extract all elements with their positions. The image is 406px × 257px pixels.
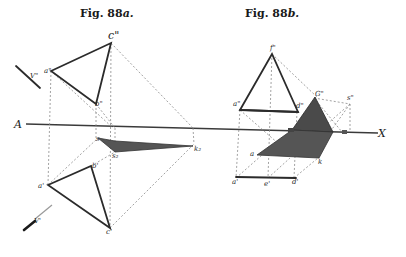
- label-a-double-prime-b: a": [233, 100, 240, 108]
- figure-88a: c" a" b" V" s s₂ k₂ a' b' c' V': [16, 29, 201, 236]
- label-b-double-prime: b": [95, 100, 103, 108]
- label-e-prime: e': [264, 180, 270, 188]
- label-k-shadow: k: [318, 158, 322, 166]
- label-a-prime-b: a': [232, 178, 238, 186]
- triangle-vertical-projection: [51, 43, 111, 104]
- caption-fig-88b: Fig. 88b.: [245, 7, 299, 20]
- label-c-double-prime: c": [108, 29, 119, 42]
- label-d-double-prime: d": [296, 102, 304, 110]
- caption-fig-88a: Fig. 88a.: [80, 7, 134, 20]
- triangle-vertical-projection-b: [240, 54, 298, 112]
- axis-label-x: X: [377, 127, 387, 140]
- label-b-prime: b': [92, 162, 98, 170]
- label-G-double-prime: G": [315, 90, 324, 98]
- label-V-double-prime: V": [30, 72, 38, 80]
- label-c-prime: c': [106, 228, 112, 236]
- horizontal-projection-edge-b: [236, 177, 296, 178]
- label-f-double-prime: f": [269, 44, 276, 52]
- label-V-prime: V': [34, 217, 41, 225]
- triangle-horizontal-projection: [48, 166, 110, 228]
- cast-shadow-a: [98, 138, 193, 152]
- label-s2: s₂: [112, 152, 119, 160]
- label-k2: k₂: [194, 145, 201, 153]
- label-s: s: [96, 135, 100, 143]
- cast-shadow-horizontal-b: [257, 130, 333, 158]
- label-a-prime: a': [38, 182, 44, 190]
- label-a-double-prime: a": [44, 67, 51, 75]
- figure-88b: f" a" d" G" s" a k a' e' d': [232, 44, 354, 188]
- label-s-double-prime: s": [347, 94, 354, 102]
- label-d-prime: d': [292, 178, 298, 186]
- axis-label-a: A: [13, 118, 22, 131]
- descriptive-geometry-diagram: Fig. 88a. Fig. 88b. A X c" a": [0, 0, 406, 257]
- label-a-shadow: a: [250, 150, 254, 158]
